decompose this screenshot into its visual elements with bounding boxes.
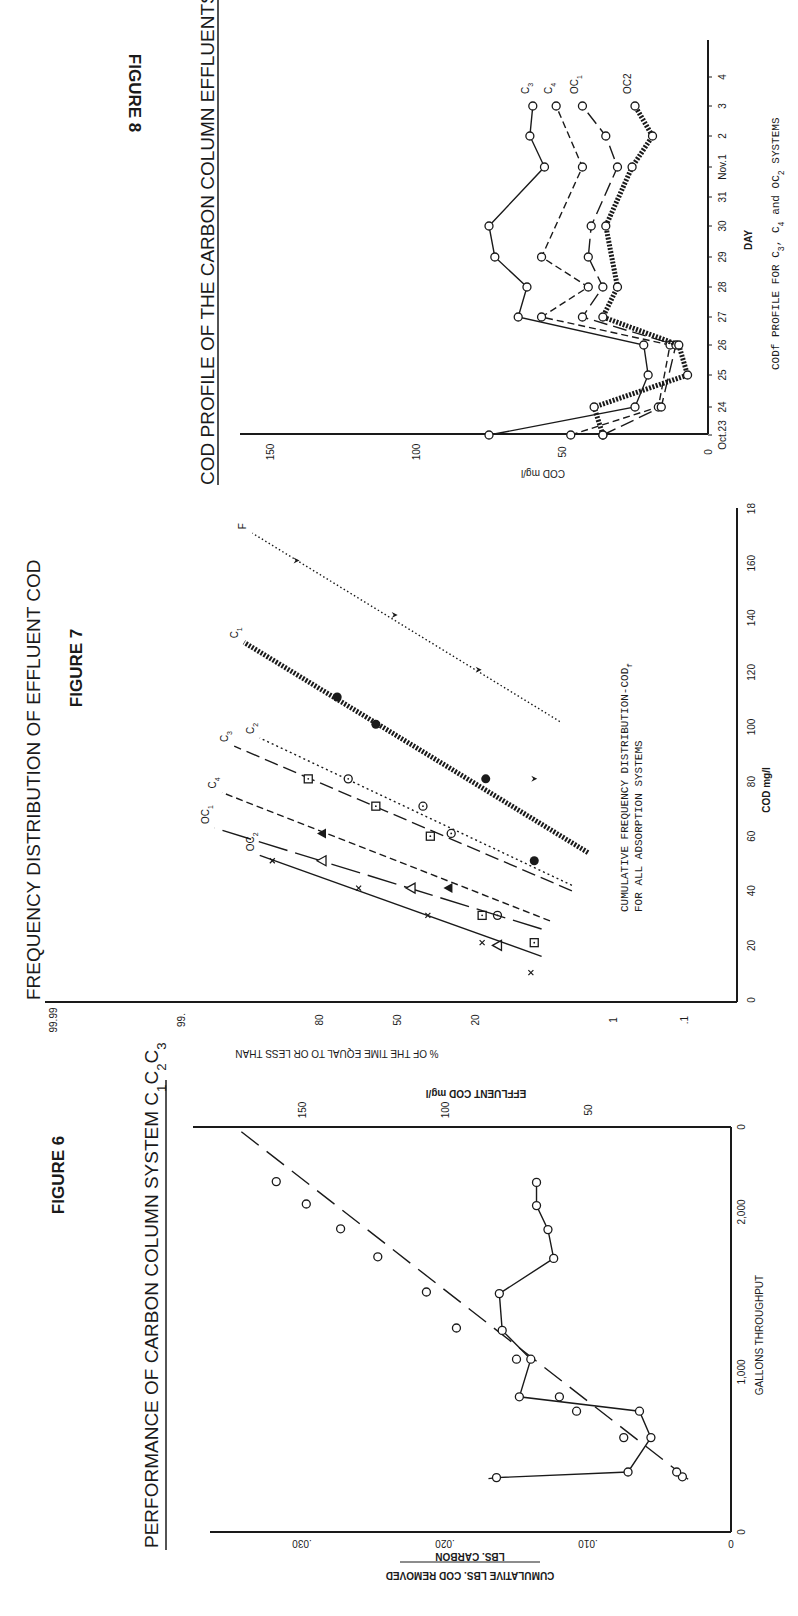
data-point <box>587 222 595 230</box>
circle-marker <box>599 283 607 291</box>
figure-7-cod-tick-label: 18 <box>746 503 757 515</box>
data-point <box>628 163 636 171</box>
circle-marker <box>599 313 607 321</box>
figure-6-x-tick-label: 0 <box>736 1529 747 1535</box>
data-point <box>304 775 312 783</box>
caption-part: SYSTEMS <box>770 117 782 170</box>
circle-marker <box>640 341 648 349</box>
series-label-part: OC <box>569 79 580 94</box>
caption-part: CODf PROFILE FOR C <box>770 251 782 370</box>
circle-marker <box>544 1226 552 1234</box>
circle-marker <box>620 1434 628 1442</box>
circle-marker <box>624 1468 632 1476</box>
center-dot <box>533 942 535 944</box>
filled-circle-marker <box>333 692 342 701</box>
circle-marker <box>513 1355 521 1363</box>
figure-6-left-tick-label: .030 <box>292 1538 312 1549</box>
figure-6-right-tick-label: 100 <box>440 1101 451 1118</box>
figure-7-cod-axis-label: COD mg/l <box>761 767 772 813</box>
data-point <box>578 163 586 171</box>
data-point <box>602 132 610 140</box>
figure-6-x-axis-label: GALLONS THROUGHPUT <box>754 1275 765 1395</box>
data-point <box>635 1407 643 1415</box>
filled-circle-marker <box>481 774 490 783</box>
data-point <box>578 313 586 321</box>
figure-8-x-tick-label: 25 <box>717 369 728 381</box>
data-point <box>599 431 607 439</box>
figure-7-label: FIGURE 7 <box>67 629 86 707</box>
data-point <box>515 1393 523 1401</box>
figure-7-probability-tick-label: 80 <box>314 1014 325 1026</box>
series-label-part: 1 <box>206 805 213 809</box>
circle-marker <box>584 283 592 291</box>
circle-marker <box>485 431 493 439</box>
figure-8-x-axis-label: DAY <box>743 230 754 251</box>
figure-8-x-tick-label: 3 <box>717 103 728 109</box>
circle-marker <box>529 102 537 110</box>
caption-part: and OC <box>770 175 782 222</box>
figure-7-annotation-line-2: FOR ALL ADSORPTION SYSTEMS <box>633 740 645 912</box>
data-point <box>530 939 538 947</box>
data-point <box>649 132 657 140</box>
data-point <box>590 403 598 411</box>
circle-marker <box>452 1324 460 1332</box>
circle-marker <box>526 132 534 140</box>
circle-marker <box>613 163 621 171</box>
data-point <box>631 403 639 411</box>
data-point <box>485 222 493 230</box>
circle-marker <box>540 163 548 171</box>
data-point <box>529 102 537 110</box>
figure-8-x-tick-label: Nov.1 <box>717 154 728 180</box>
series-label-part: 4 <box>214 777 221 781</box>
title-part: C <box>141 1050 162 1064</box>
center-dot <box>450 833 452 835</box>
figure-6-left-axis-denominator: LBS. CARBON <box>435 1551 504 1562</box>
figure-8-x-tick-label: 28 <box>717 281 728 293</box>
data-point <box>550 1254 558 1262</box>
data-point <box>491 253 499 261</box>
figure-7-cod-tick-label: 100 <box>746 718 757 735</box>
circle-marker <box>538 253 546 261</box>
figure-7-probability-tick-label: 20 <box>470 1014 481 1026</box>
figure-8-x-tick-label: 30 <box>717 220 728 232</box>
circle-marker <box>599 431 607 439</box>
data-point <box>333 692 342 701</box>
data-point <box>567 431 575 439</box>
series-label-part: C <box>207 781 218 788</box>
data-point <box>530 856 539 865</box>
series-label-part: 4 <box>550 83 557 87</box>
circle-marker <box>337 1225 345 1233</box>
title-part: 2 <box>154 1063 169 1070</box>
series-label-part: C <box>245 727 256 734</box>
data-point <box>578 102 586 110</box>
circle-marker <box>302 1200 310 1208</box>
data-point <box>631 102 639 110</box>
figure-7-cod-tick-label: 160 <box>746 554 757 571</box>
data-point <box>538 253 546 261</box>
data-point <box>495 1290 503 1298</box>
caption-part: , C <box>770 226 782 246</box>
filled-circle-marker <box>371 720 380 729</box>
data-point <box>555 1393 563 1401</box>
circle-marker <box>555 1393 563 1401</box>
circle-marker <box>578 163 586 171</box>
center-dot <box>375 805 377 807</box>
circle-marker <box>567 431 575 439</box>
circle-marker <box>515 1393 523 1401</box>
circle-marker <box>374 1253 382 1261</box>
circle-marker <box>578 313 586 321</box>
title-part: C <box>141 1092 162 1106</box>
circle-marker <box>635 1407 643 1415</box>
data-point <box>426 832 434 840</box>
data-point <box>599 313 607 321</box>
filled-circle-marker <box>530 856 539 865</box>
figure-8-title-text: COD PROFILE OF THE CARBON COLUMN EFFLUEN… <box>197 0 218 485</box>
figure-8-y-axis-label: COD mg/l <box>521 468 565 479</box>
title-part: 3 <box>154 1042 169 1049</box>
data-point <box>344 775 352 783</box>
circle-marker <box>523 283 531 291</box>
series-label-part: OC <box>245 836 256 851</box>
data-point <box>599 283 607 291</box>
center-dot <box>307 778 309 780</box>
data-point <box>647 1434 655 1442</box>
